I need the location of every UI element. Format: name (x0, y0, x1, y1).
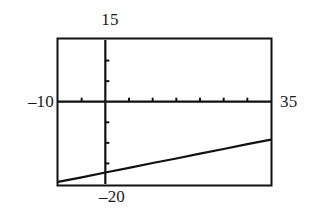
plot-figure: 15 –10 35 –20 (0, 0, 319, 216)
plot-frame (58, 39, 272, 186)
plot-canvas (0, 0, 319, 216)
